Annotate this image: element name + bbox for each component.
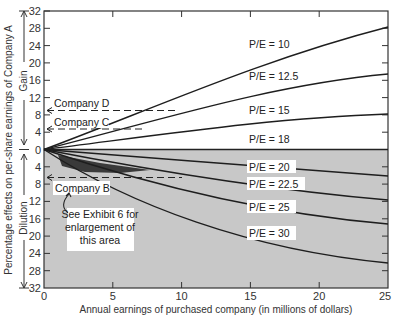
svg-text:8: 8 bbox=[35, 109, 41, 121]
svg-text:12: 12 bbox=[29, 92, 41, 104]
svg-text:16: 16 bbox=[29, 74, 41, 86]
y-axis-title: Percentage effects on per-share earnings… bbox=[3, 25, 14, 275]
svg-text:20: 20 bbox=[313, 290, 325, 302]
series-pe10 bbox=[44, 27, 388, 150]
svg-text:P/E = 12.5: P/E = 12.5 bbox=[249, 70, 298, 82]
svg-text:P/E = 25: P/E = 25 bbox=[249, 201, 290, 213]
svg-text:24: 24 bbox=[29, 247, 41, 259]
svg-text:P/E = 18: P/E = 18 bbox=[249, 133, 290, 145]
svg-text:10: 10 bbox=[175, 290, 187, 302]
svg-text:P/E = 22.5: P/E = 22.5 bbox=[249, 178, 298, 190]
svg-text:15: 15 bbox=[244, 290, 256, 302]
svg-text:5: 5 bbox=[110, 290, 116, 302]
svg-text:20: 20 bbox=[29, 230, 41, 242]
svg-text:P/E = 15: P/E = 15 bbox=[249, 104, 290, 116]
svg-text:P/E = 20: P/E = 20 bbox=[249, 161, 290, 173]
gain-label: Gain bbox=[18, 70, 29, 91]
svg-text:12: 12 bbox=[29, 195, 41, 207]
svg-text:16: 16 bbox=[29, 213, 41, 225]
dilution-label: Dilution bbox=[18, 201, 29, 234]
x-tick-labels: 0 5 10 15 20 25 bbox=[41, 290, 391, 302]
svg-text:0: 0 bbox=[35, 144, 41, 156]
svg-text:See Exhibit 6 for: See Exhibit 6 for bbox=[61, 208, 139, 220]
svg-text:25: 25 bbox=[379, 290, 391, 302]
svg-text:32: 32 bbox=[29, 5, 41, 17]
company-c-label: Company C bbox=[54, 116, 110, 128]
svg-text:28: 28 bbox=[29, 265, 41, 277]
company-d-label: Company D bbox=[54, 97, 110, 109]
series-pe12-5 bbox=[44, 74, 388, 150]
pe-dilution-chart: 32 28 24 20 16 12 8 4 0 4 8 12 16 20 24 … bbox=[0, 0, 396, 319]
svg-text:4: 4 bbox=[35, 126, 41, 138]
svg-text:8: 8 bbox=[35, 178, 41, 190]
company-b-label: Company B bbox=[55, 182, 110, 194]
svg-text:0: 0 bbox=[41, 290, 47, 302]
svg-text:20: 20 bbox=[29, 57, 41, 69]
svg-text:28: 28 bbox=[29, 22, 41, 34]
svg-text:P/E = 10: P/E = 10 bbox=[249, 38, 290, 50]
y-tick-labels: 32 28 24 20 16 12 8 4 0 4 8 12 16 20 24 … bbox=[29, 5, 41, 294]
svg-text:this area: this area bbox=[80, 234, 120, 246]
svg-text:enlargement of: enlargement of bbox=[65, 221, 135, 233]
x-axis-title: Annual earnings of purchased company (in… bbox=[80, 304, 353, 315]
svg-text:32: 32 bbox=[29, 282, 41, 294]
svg-text:P/E = 30: P/E = 30 bbox=[249, 227, 290, 239]
svg-text:4: 4 bbox=[35, 161, 41, 173]
svg-text:24: 24 bbox=[29, 40, 41, 52]
